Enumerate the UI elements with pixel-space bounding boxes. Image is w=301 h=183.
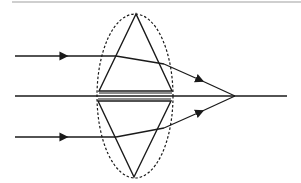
lower-ray-in-prism <box>116 128 164 137</box>
lower-ray-to-focus <box>198 96 235 113</box>
upper-prism <box>99 14 172 91</box>
upper-ray-to-focus <box>198 79 235 96</box>
upper-ray-refracted <box>164 64 200 80</box>
lens-prism-diagram: Lens as combination of prisms <box>0 0 301 183</box>
lower-prism <box>98 101 171 177</box>
lower-ray-refracted <box>164 112 200 128</box>
